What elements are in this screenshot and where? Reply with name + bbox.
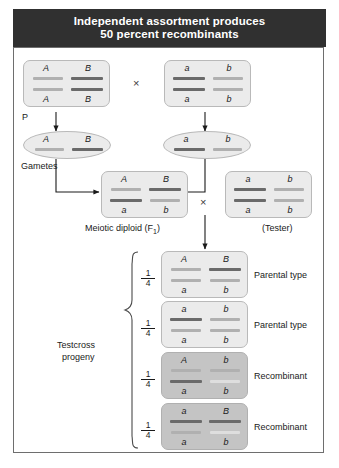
- progeny-3-bar-bottom-right: [210, 380, 240, 383]
- f1-bar-bottom-right: [150, 199, 180, 202]
- progeny-2-bar-bottom-left: [171, 329, 201, 332]
- progeny-1-bar-bottom-left: [171, 279, 201, 282]
- cross-symbol-p: ×: [133, 77, 139, 89]
- progeny-1-allele-top-left: A: [168, 254, 200, 264]
- progeny-2-fraction-denominator: 4: [141, 328, 155, 338]
- f1-box: A B a b: [101, 171, 188, 218]
- parent-2-allele-top-left: a: [171, 63, 203, 73]
- progeny-3-allele-bottom-right: b: [210, 386, 242, 396]
- progeny-4-type: Recombinant: [254, 422, 307, 432]
- f1-allele-top-left: A: [108, 174, 140, 184]
- progeny-1-fraction-numerator: 1: [141, 269, 155, 278]
- progeny-1-bar-top-right: [209, 268, 241, 271]
- parent-1-bar-bottom-left: [33, 88, 63, 91]
- tester-bar-top-left: [234, 188, 266, 191]
- f1-bar-top-left: [111, 188, 141, 191]
- gamete-2-allele-right: b: [212, 134, 244, 144]
- label-testcross-progeny-line-2: progeny: [62, 352, 95, 362]
- f1-bar-bottom-left: [110, 199, 142, 202]
- label-p-generation: P: [22, 112, 28, 122]
- gamete-2-bar-left: [174, 148, 205, 151]
- progeny-3-allele-top-left: A: [168, 355, 200, 365]
- progeny-2-allele-top-left: a: [168, 304, 200, 314]
- progeny-3-bar-top-right: [210, 369, 240, 372]
- parent-1-allele-top-right: B: [72, 63, 104, 73]
- tester-bar-top-right: [274, 188, 304, 191]
- label-meiotic-diploid-text: Meiotic diploid (F: [85, 223, 153, 233]
- progeny-4-fraction-numerator: 1: [141, 421, 155, 430]
- parent-1-bar-top-right: [71, 77, 103, 80]
- progeny-1-bar-top-left: [171, 268, 201, 271]
- title-line-1: Independent assortment produces: [74, 15, 266, 29]
- progeny-2-fraction-numerator: 1: [141, 319, 155, 328]
- parent-2-bar-top-right: [213, 77, 243, 80]
- parent-2-bar-top-left: [173, 77, 205, 80]
- progeny-2-bar-bottom-right: [210, 329, 240, 332]
- progeny-3-bar-bottom-left: [170, 380, 202, 383]
- tester-allele-bottom-right: b: [274, 205, 306, 215]
- parent-box-2: a b a b: [164, 60, 251, 107]
- tester-box: a b a b: [225, 171, 312, 218]
- progeny-4-bar-top-left: [170, 420, 202, 423]
- progeny-4-allele-bottom-left: a: [168, 437, 200, 447]
- label-meiotic-diploid-close: ): [157, 223, 160, 233]
- progeny-1-allele-top-right: B: [210, 254, 242, 264]
- gamete-oval-2: a b: [163, 131, 251, 159]
- progeny-2-bar-top-left: [170, 318, 202, 321]
- cross-symbol-testcross: ×: [200, 196, 206, 208]
- progeny-3-fraction-denominator: 4: [141, 379, 155, 389]
- progeny-4-bar-bottom-left: [171, 431, 201, 434]
- progeny-4-fraction-denominator: 4: [141, 430, 155, 440]
- figure-root: Independent assortment produces 50 perce…: [0, 0, 339, 468]
- progeny-4-bar-top-right: [209, 420, 241, 423]
- f1-allele-top-right: B: [150, 174, 182, 184]
- progeny-2-bar-top-right: [210, 318, 240, 321]
- gamete-1-bar-right: [72, 148, 103, 151]
- parent-box-1: A B A B: [23, 60, 110, 107]
- gamete-oval-1: A B: [23, 131, 111, 159]
- progeny-3-bar-top-left: [171, 369, 201, 372]
- parent-2-bar-bottom-left: [173, 88, 205, 91]
- parent-1-bar-top-left: [33, 77, 63, 80]
- tester-bar-bottom-right: [274, 199, 304, 202]
- progeny-box-4: a B a b: [161, 403, 248, 450]
- title-line-2: 50 percent recombinants: [100, 28, 238, 42]
- gamete-2-bar-right: [213, 148, 242, 151]
- progeny-3-allele-bottom-left: a: [168, 386, 200, 396]
- progeny-4-allele-top-left: a: [168, 406, 200, 416]
- progeny-3-fraction-numerator: 1: [141, 370, 155, 379]
- label-meiotic-diploid: Meiotic diploid (F1): [85, 223, 160, 235]
- tester-allele-top-right: b: [274, 174, 306, 184]
- tester-allele-bottom-left: a: [232, 205, 264, 215]
- tester-allele-top-left: a: [232, 174, 264, 184]
- parent-1-allele-bottom-left: A: [30, 94, 62, 104]
- label-tester: (Tester): [262, 223, 293, 233]
- label-testcross-progeny-line-1: Testcross: [57, 340, 95, 350]
- label-gametes: Gametes: [21, 161, 58, 171]
- progeny-2-type: Parental type: [254, 320, 307, 330]
- progeny-box-2: a b a b: [161, 301, 248, 348]
- progeny-box-3: A b a b: [161, 352, 248, 399]
- progeny-3-type: Recombinant: [254, 371, 307, 381]
- tester-bar-bottom-left: [234, 199, 266, 202]
- progeny-1-fraction-denominator: 4: [141, 278, 155, 288]
- f1-bar-top-right: [149, 188, 181, 191]
- progeny-1-type: Parental type: [254, 270, 307, 280]
- parent-2-allele-bottom-right: b: [213, 94, 245, 104]
- progeny-2-allele-top-right: b: [210, 304, 242, 314]
- progeny-1-bar-bottom-right: [210, 279, 240, 282]
- progeny-3-fraction: 1 4: [141, 370, 155, 389]
- parent-2-allele-top-right: b: [213, 63, 245, 73]
- progeny-1-fraction: 1 4: [141, 269, 155, 288]
- parent-1-allele-top-left: A: [30, 63, 62, 73]
- progeny-4-allele-top-right: B: [210, 406, 242, 416]
- f1-allele-bottom-right: b: [150, 205, 182, 215]
- gamete-2-allele-left: a: [170, 134, 202, 144]
- progeny-4-bar-bottom-right: [210, 431, 240, 434]
- progeny-4-fraction: 1 4: [141, 421, 155, 440]
- progeny-4-allele-bottom-right: b: [210, 437, 242, 447]
- progeny-2-fraction: 1 4: [141, 319, 155, 338]
- gamete-1-allele-right: B: [72, 134, 104, 144]
- parent-1-allele-bottom-right: B: [72, 94, 104, 104]
- progeny-3-allele-top-right: b: [210, 355, 242, 365]
